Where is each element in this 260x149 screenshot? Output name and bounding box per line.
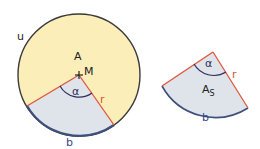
label-area-A: A <box>74 50 82 63</box>
label-angle-alpha: α <box>72 85 79 98</box>
detached-label-area-sub: S <box>210 89 215 98</box>
detached-label-alpha: α <box>205 57 212 70</box>
circle-sector-diagram: u A M α r b α r AS b <box>0 0 260 149</box>
detached-label-b: b <box>202 111 209 124</box>
label-arc-b: b <box>66 136 73 149</box>
diagram-canvas: u A M α r b α r AS b <box>0 0 260 149</box>
label-radius-r: r <box>100 93 105 106</box>
label-circumference-u: u <box>17 30 24 43</box>
label-center-M: M <box>84 65 94 78</box>
detached-label-r: r <box>232 68 237 81</box>
